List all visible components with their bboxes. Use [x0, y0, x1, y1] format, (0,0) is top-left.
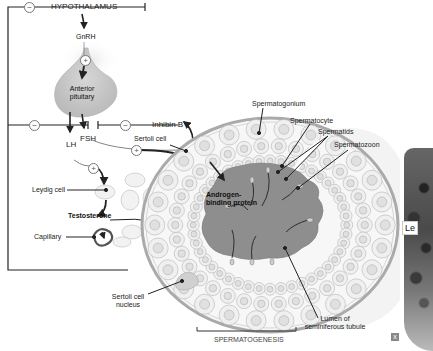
germ-cell-nucleus: [202, 257, 208, 263]
inhibit-sign-lh-feedback: −: [29, 120, 40, 131]
germ-cell-nucleus: [191, 213, 197, 219]
germ-cell-nucleus: [209, 284, 217, 292]
germ-cell-nucleus: [197, 249, 203, 255]
label-spermatocyte: Spermatocyte: [290, 117, 333, 125]
label-sertoli-cell: Sertoli cell: [134, 135, 166, 143]
germ-cell-nucleus: [330, 299, 340, 309]
germ-cell-nucleus: [235, 280, 241, 286]
germ-cell-nucleus: [267, 286, 273, 292]
germ-cell-nucleus: [343, 231, 349, 237]
germ-cell-nucleus: [224, 310, 234, 320]
tubule-lumen: [202, 163, 323, 260]
germ-cell-nucleus: [173, 236, 181, 244]
germ-cell-nucleus: [256, 286, 262, 292]
germ-cell-nucleus: [325, 264, 331, 270]
label-lh: LH: [66, 140, 76, 149]
germ-cell-nucleus: [351, 284, 361, 294]
micrograph-image: [404, 148, 433, 351]
germ-cell-nucleus: [355, 250, 363, 258]
germ-cell-nucleus: [258, 142, 266, 150]
germ-cell-nucleus: [278, 158, 284, 164]
germ-cell-nucleus: [186, 263, 194, 271]
germ-cell-nucleus: [317, 271, 323, 277]
germ-cell-nucleus: [367, 175, 377, 185]
germ-cell-nucleus: [186, 180, 194, 188]
inhibit-sign-inhibin: −: [120, 120, 131, 131]
label-spermatids: Spermatids: [318, 128, 353, 136]
germ-cell-nucleus: [178, 250, 186, 258]
diagram-graphics: [0, 0, 433, 351]
germ-cell-nucleus: [225, 276, 231, 282]
germ-cell-nucleus: [337, 195, 343, 201]
germ-cell-nucleus: [344, 222, 350, 228]
label-inhibin-b: Inhibin B: [152, 120, 183, 129]
germ-cell-nucleus: [240, 145, 248, 153]
germ-cell-nucleus: [224, 130, 234, 140]
germ-cell-nucleus: [173, 207, 181, 215]
germ-cell-nucleus: [359, 236, 367, 244]
germ-cell-nucleus: [275, 300, 283, 308]
germ-cell-nucleus: [380, 220, 390, 230]
stimulate-sign-lh: +: [88, 163, 99, 174]
label-androgen-binding-protein: Androgen- binding protein: [206, 191, 257, 207]
germ-cell-nucleus: [343, 213, 349, 219]
label-capillary: Capillary: [34, 233, 61, 241]
germ-cell-nucleus: [275, 142, 283, 150]
germ-cell-nucleus: [153, 243, 163, 253]
germ-cell-nucleus: [258, 300, 266, 308]
germ-cell-nucleus: [317, 173, 323, 179]
germ-cell-nucleus: [172, 221, 180, 229]
germ-cell-nucleus: [341, 240, 347, 246]
stimulate-sign-gnrh: +: [80, 55, 91, 66]
germ-cell-nucleus: [191, 231, 197, 237]
germ-cell-nucleus: [279, 316, 289, 326]
germ-cell-nucleus: [278, 286, 284, 292]
label-testosterone: Testosterone: [68, 212, 111, 220]
germ-cell-nucleus: [153, 197, 163, 207]
germ-cell-nucleus: [332, 187, 338, 193]
germ-cell-nucleus: [193, 240, 199, 246]
germ-cell-nucleus: [377, 243, 387, 253]
germ-cell-nucleus: [309, 276, 315, 282]
germ-cell-nucleus: [309, 168, 315, 174]
germ-cell-nucleus: [163, 265, 173, 275]
germ-cell-nucleus: [267, 158, 273, 164]
hypothalamus-to-gnrh-arrow: [82, 14, 84, 28]
germ-cell-nucleus: [306, 130, 316, 140]
inhibit-sign-hypothalamus: −: [24, 2, 35, 13]
germ-cell-nucleus: [193, 204, 199, 210]
label-hypothalamus: HYPOTHALAMUS: [51, 2, 117, 11]
germ-cell-nucleus: [200, 141, 210, 151]
germ-cell-nucleus: [200, 299, 210, 309]
label-spermatozoon: Spermatozoon: [334, 141, 380, 149]
germ-cell-nucleus: [245, 284, 251, 290]
germ-cell-nucleus: [325, 180, 331, 186]
germ-cell-nucleus: [224, 292, 232, 300]
germ-cell-nucleus: [163, 175, 173, 185]
germ-cell-nucleus: [367, 265, 377, 275]
germ-cell-nucleus: [292, 297, 300, 305]
germ-cell-nucleus: [377, 197, 387, 207]
germ-cell-nucleus: [351, 156, 361, 166]
germ-cell-nucleus: [150, 220, 160, 230]
germ-cell-nucleus: [196, 168, 204, 176]
germ-cell-nucleus: [179, 156, 189, 166]
germ-cell-nucleus: [361, 221, 369, 229]
seminiferous-tubule: [142, 118, 400, 332]
germ-cell-nucleus: [359, 207, 367, 215]
germ-cell-nucleus: [347, 263, 355, 271]
germ-cell-nucleus: [240, 297, 248, 305]
label-leydig-cell: Leydig cell: [32, 186, 65, 194]
germ-cell-nucleus: [336, 168, 344, 176]
label-spermatogenesis: SPERMATOGENESIS: [214, 336, 284, 344]
label-lumen: Lumen of seminiferous tubule: [300, 315, 370, 331]
diagram-canvas: − + − − + + HYPOTHALAMUS GnRH Anterior p…: [0, 0, 433, 351]
germ-cell-nucleus: [251, 316, 261, 326]
micrograph-panel: [404, 148, 433, 351]
germ-cell-nucleus: [341, 204, 347, 210]
zoom-icon[interactable]: x: [391, 333, 399, 341]
label-gnrh: GnRH: [76, 33, 95, 41]
germ-cell-nucleus: [289, 284, 295, 290]
label-spermatogonium: Spermatogonium: [252, 100, 305, 108]
germ-cell-nucleus: [308, 292, 316, 300]
